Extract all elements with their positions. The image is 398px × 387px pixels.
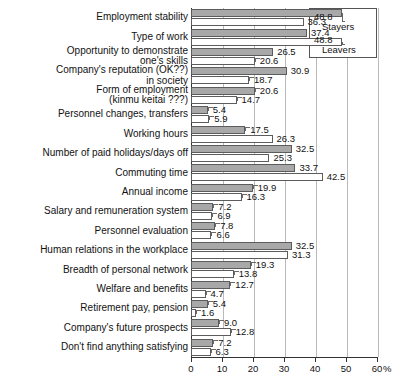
value-leader-line [249, 77, 254, 81]
bar-value-label: 1.6 [201, 308, 214, 318]
value-leader-line [209, 116, 214, 120]
bar-leavers [191, 76, 249, 84]
bar-leavers [191, 115, 209, 123]
value-leader-line [234, 271, 239, 275]
bar-value-label: 13.8 [239, 269, 258, 279]
value-leader-line [245, 127, 250, 131]
value-leader-line [212, 213, 217, 217]
category-label: Annual income [2, 187, 188, 198]
value-leader-line [237, 97, 242, 101]
category-label: Commuting time [2, 168, 188, 179]
bar-leavers [191, 328, 231, 336]
bar-leavers [191, 173, 323, 181]
bar-stayers [191, 319, 219, 327]
bar-value-label: 48.8 [314, 35, 333, 45]
x-axis-tick [191, 357, 192, 362]
category-label: Breadth of personal network [2, 265, 188, 276]
bar-leavers [191, 270, 234, 278]
x-axis-tick [346, 357, 347, 362]
category-label: Form of employment (kinmu keitai ???) [2, 85, 188, 106]
bar-value-label: 12.7 [235, 280, 254, 290]
bar-stayers [191, 203, 213, 211]
bar-stayers [191, 339, 213, 347]
bar-value-label: 26.3 [277, 134, 296, 144]
gridline [285, 8, 286, 357]
value-leader-line [230, 282, 235, 286]
gridline [347, 8, 348, 357]
bar-value-label: 42.5 [327, 172, 346, 182]
value-leader-line [208, 301, 213, 305]
bar-value-label: 32.5 [296, 144, 315, 154]
bar-stayers [191, 164, 295, 172]
bar-value-label: 31.3 [292, 250, 311, 260]
value-leader-line [208, 107, 213, 111]
legend-label-leavers: Leavers [322, 45, 356, 55]
gridline [316, 8, 317, 357]
bar-value-label: 16.3 [247, 192, 266, 202]
bar-stayers [191, 126, 245, 134]
x-axis-tick [253, 357, 254, 362]
x-axis-unit-label: % [383, 363, 391, 374]
bar-value-label: 14.7 [242, 95, 261, 105]
bar-value-label: 25.3 [273, 153, 292, 163]
value-leader-line [253, 185, 258, 189]
value-leader-line [196, 310, 201, 314]
bar-stayers [191, 106, 208, 114]
x-axis-tick [284, 357, 285, 362]
bar-value-label: 33.7 [299, 163, 318, 173]
bar-stayers [191, 242, 292, 250]
value-leader-line [213, 340, 218, 344]
x-axis-tick [377, 357, 378, 362]
category-label: Personnel evaluation [2, 226, 188, 237]
x-axis-tick-label: 10 [217, 363, 228, 374]
value-leader-line [206, 291, 211, 295]
value-leader-line [242, 194, 247, 198]
value-leader-line [251, 262, 256, 266]
bar-stayers [191, 184, 253, 192]
bar-value-label: 5.4 [213, 299, 226, 309]
bar-leavers [191, 18, 304, 26]
bar-value-label: 18.7 [254, 75, 273, 85]
bar-value-label: 17.5 [250, 125, 269, 135]
bar-leavers [191, 231, 211, 239]
category-label: Company's future prospects [2, 323, 188, 334]
bar-leavers [191, 348, 211, 356]
x-axis-tick-label: 20 [248, 363, 259, 374]
bar-value-label: 12.8 [236, 327, 255, 337]
value-leader-line [231, 329, 236, 333]
bar-value-label: 19.3 [256, 260, 275, 270]
bar-leavers [191, 96, 237, 104]
bar-leavers [191, 193, 242, 201]
bar-stayers [191, 67, 287, 75]
x-axis-tick [222, 357, 223, 362]
bar-value-label: 26.5 [277, 47, 296, 57]
value-leader-line [342, 42, 345, 45]
category-label: Number of paid holidays/days off [2, 148, 188, 159]
x-axis-tick-label: 60 [372, 363, 383, 374]
category-label: Human relations in the workplace [2, 245, 188, 256]
bar-chart: Employment stabilityType of workOpportun… [0, 0, 398, 387]
bar-value-label: 6.6 [216, 230, 229, 240]
x-axis-tick-label: 50 [341, 363, 352, 374]
bar-leavers [191, 154, 269, 162]
category-label: Don't find anything satisfying [2, 342, 188, 353]
value-leader-line [219, 320, 224, 324]
value-leader-line [342, 13, 345, 22]
x-axis-tick-label: 40 [310, 363, 321, 374]
bar-value-label: 6.9 [217, 211, 230, 221]
x-axis-tick-label: 0 [188, 363, 193, 374]
bar-leavers [191, 251, 288, 259]
gridline [378, 8, 379, 357]
value-leader-line [255, 58, 260, 62]
bar-leavers [191, 290, 206, 298]
bar-stayers [191, 222, 215, 230]
bar-value-label: 20.6 [260, 56, 279, 66]
bar-leavers [191, 57, 255, 65]
bar-value-label: 6.3 [216, 347, 229, 357]
bar-value-label: 4.7 [211, 289, 224, 299]
bar-leavers [191, 135, 273, 143]
x-axis-tick [315, 357, 316, 362]
bar-value-label: 36.3 [308, 17, 327, 27]
value-leader-line [215, 223, 220, 227]
value-leader-line [211, 349, 216, 353]
